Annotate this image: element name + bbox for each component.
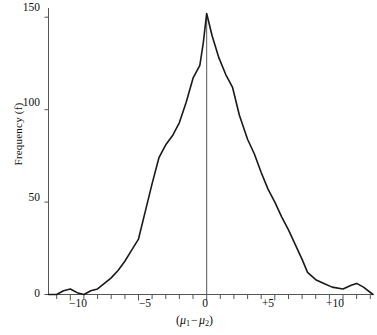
x-axis-title: (μ1 − μ2) — [0, 313, 377, 328]
x-label-minus: − — [191, 313, 198, 327]
x-label-paren-close: ) — [209, 313, 213, 327]
chart-canvas — [0, 0, 377, 335]
frequency-distribution-figure: 150 100 50 0 −10 −5 0 +5 +10 Frequency (… — [0, 0, 377, 335]
x-tick-label-neg5: −5 — [122, 297, 168, 309]
y-axis-title: Frequency (f) — [12, 74, 24, 194]
x-axis-title-text: (μ1 − μ2) — [164, 313, 213, 328]
y-tick-label-150: 150 — [0, 1, 40, 13]
x-tick-label-pos10: +10 — [312, 297, 358, 309]
x-tick-label-neg10: −10 — [55, 297, 101, 309]
x-tick-label-0: 0 — [182, 297, 228, 309]
y-axis-title-text: Frequency (f) — [12, 103, 24, 166]
x-label-subscript-1: 1 — [186, 319, 190, 328]
y-tick-label-0: 0 — [0, 287, 40, 299]
chart-background — [0, 0, 377, 335]
x-tick-label-pos5: +5 — [245, 297, 291, 309]
